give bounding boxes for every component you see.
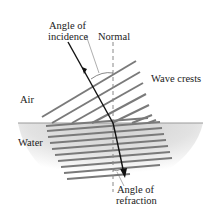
label-angle-of-refraction-1: Angle of (117, 184, 155, 195)
air-wave-crests (42, 61, 156, 123)
label-angle-of-incidence-2: incidence (48, 31, 89, 42)
label-normal: Normal (98, 31, 130, 42)
label-air: Air (20, 94, 35, 105)
refraction-diagram: Angle of incidence Normal Wave crests Ai… (0, 0, 218, 213)
label-water: Water (18, 137, 43, 148)
label-angle-of-incidence-1: Angle of (49, 20, 87, 31)
label-angle-of-refraction-2: refraction (116, 195, 158, 206)
incident-ray-arrowhead (82, 67, 87, 74)
label-wave-crests: Wave crests (151, 73, 201, 84)
